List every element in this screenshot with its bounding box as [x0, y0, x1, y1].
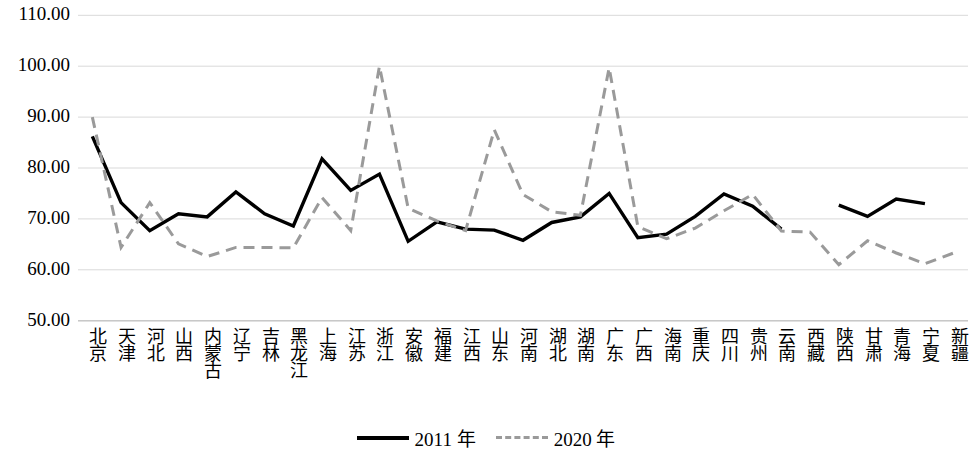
x-tick-label: 湖北: [543, 327, 569, 361]
y-tick-label: 80.00: [27, 156, 70, 178]
x-tick-label: 天津: [112, 327, 138, 361]
x-tick-label: 吉林: [256, 327, 282, 361]
x-tick-label: 宁夏: [916, 327, 942, 361]
legend-swatch-dashed-line-icon: [496, 436, 548, 439]
legend-item-2011: 2011 年: [357, 424, 476, 451]
y-tick-label: 110.00: [18, 3, 70, 25]
x-tick-label: 辽宁: [227, 327, 253, 361]
y-tick-label: 50.00: [27, 309, 70, 331]
y-tick-label: 60.00: [27, 258, 70, 280]
x-tick-label: 黑龙江: [284, 327, 310, 378]
series-line-2011: [839, 199, 925, 216]
x-tick-label: 河北: [141, 327, 167, 361]
x-tick-label: 江苏: [342, 327, 368, 361]
x-tick-label: 广东: [600, 327, 626, 361]
chart-legend: 2011 年 2020 年: [0, 424, 972, 451]
x-tick-label: 安徽: [399, 327, 425, 361]
x-tick-label: 上海: [313, 327, 339, 361]
x-tick-label: 山西: [169, 327, 195, 361]
series-line-2011: [92, 136, 781, 241]
x-tick-label: 海南: [658, 327, 684, 361]
gridlines: [78, 15, 968, 320]
x-tick-label: 四川: [715, 327, 741, 361]
legend-label-2020: 2020 年: [554, 424, 616, 451]
series-lines: [92, 66, 953, 265]
legend-swatch-solid-line-icon: [357, 436, 409, 440]
x-tick-label: 陕西: [830, 327, 856, 361]
x-tick-label: 青海: [887, 327, 913, 361]
x-tick-label: 广西: [629, 327, 655, 361]
x-tick-label: 贵州: [744, 327, 770, 361]
y-tick-label: 100.00: [18, 54, 70, 76]
plot-area: [0, 0, 972, 462]
x-tick-label: 西藏: [801, 327, 827, 361]
x-tick-label: 云南: [772, 327, 798, 361]
x-tick-label: 湖南: [571, 327, 597, 361]
x-tick-label: 山东: [485, 327, 511, 361]
x-tick-label: 新疆: [945, 327, 971, 361]
x-tick-label: 内蒙古: [198, 327, 224, 378]
legend-label-2011: 2011 年: [415, 424, 476, 451]
legend-item-2020: 2020 年: [496, 424, 616, 451]
line-chart: 110.00100.0090.0080.0070.0060.0050.00 北京…: [0, 0, 972, 462]
x-tick-label: 河南: [514, 327, 540, 361]
x-tick-label: 江西: [457, 327, 483, 361]
x-tick-label: 浙江: [370, 327, 396, 361]
x-tick-label: 甘肃: [859, 327, 885, 361]
series-line-2020: [92, 66, 953, 265]
x-tick-label: 北京: [83, 327, 109, 361]
y-tick-label: 70.00: [27, 207, 70, 229]
y-tick-label: 90.00: [27, 105, 70, 127]
x-tick-label: 福建: [428, 327, 454, 361]
x-tick-label: 重庆: [686, 327, 712, 361]
